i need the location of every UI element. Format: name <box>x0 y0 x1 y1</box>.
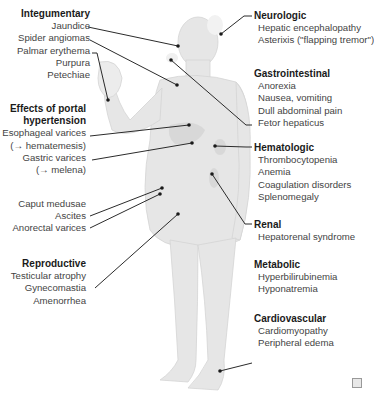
list-item: Hyperbilirubinemia <box>254 271 337 283</box>
group-hematologic: Hematologic Thrombocytopenia Anemia Coag… <box>254 142 351 203</box>
list-item: Peripheral edema <box>254 337 334 349</box>
list-item: Purpura <box>17 57 90 69</box>
group-header: Cardiovascular <box>254 313 334 325</box>
group-gastrointestinal: Gastrointestinal Anorexia Nausea, vomiti… <box>254 68 342 129</box>
list-item: Cardiomyopathy <box>254 325 334 337</box>
group-portal-hypertension-cont: Caput medusae Ascites Anorectal varices <box>12 198 86 235</box>
group-header: Reproductive <box>11 258 86 270</box>
publisher-logo-icon <box>352 378 362 388</box>
list-item: Amenorrhea <box>11 295 86 307</box>
list-item: Testicular atrophy <box>11 270 86 282</box>
list-item: Anorectal varices <box>12 222 86 234</box>
group-cardiovascular: Cardiovascular Cardiomyopathy Peripheral… <box>254 313 334 350</box>
list-item: Ascites <box>12 210 86 222</box>
list-item: Gynecomastia <box>11 282 86 294</box>
list-item: Esophageal varices <box>2 127 86 139</box>
group-portal-hypertension: Effects of portal hypertension Esophagea… <box>2 103 86 176</box>
list-item: (→ melena) <box>2 164 86 176</box>
group-header-line2: hypertension <box>2 115 86 127</box>
list-item: Coagulation disorders <box>254 179 351 191</box>
group-renal: Renal Hepatorenal syndrome <box>254 219 355 243</box>
list-item: Fetor hepaticus <box>254 117 342 129</box>
group-reproductive: Reproductive Testicular atrophy Gynecoma… <box>11 258 86 307</box>
list-item: Dull abdominal pain <box>254 105 342 117</box>
list-item: Hyponatremia <box>254 283 337 295</box>
group-header: Metabolic <box>254 259 337 271</box>
group-neurologic: Neurologic Hepatic encephalopathy Asteri… <box>254 10 374 47</box>
list-item: Nausea, vomiting <box>254 92 342 104</box>
list-item: Anemia <box>254 166 351 178</box>
list-item: Gastric varices <box>2 152 86 164</box>
group-header: Renal <box>254 219 355 231</box>
list-item: Palmar erythema <box>17 45 90 57</box>
list-item: Asterixis ("flapping tremor") <box>254 34 374 46</box>
list-item: Thrombocytopenia <box>254 154 351 166</box>
group-metabolic: Metabolic Hyperbilirubinemia Hyponatremi… <box>254 259 337 296</box>
list-item: Splenomegaly <box>254 191 351 203</box>
list-item: Jaundice <box>17 20 90 32</box>
group-header: Integumentary <box>17 8 90 20</box>
list-item: Hepatic encephalopathy <box>254 22 374 34</box>
group-header: Gastrointestinal <box>254 68 342 80</box>
group-header: Neurologic <box>254 10 374 22</box>
list-item: Caput medusae <box>12 198 86 210</box>
group-header: Effects of portal <box>2 103 86 115</box>
group-integumentary: Integumentary Jaundice Spider angiomas P… <box>17 8 90 81</box>
list-item: Spider angiomas <box>17 32 90 44</box>
group-header: Hematologic <box>254 142 351 154</box>
list-item: (→ hematemesis) <box>2 140 86 152</box>
list-item: Hepatorenal syndrome <box>254 231 355 243</box>
list-item: Anorexia <box>254 80 342 92</box>
list-item: Petechiae <box>17 69 90 81</box>
